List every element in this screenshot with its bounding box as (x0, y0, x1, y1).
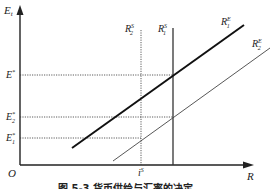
label-r1-supply: RS1 (157, 23, 167, 36)
y-axis-arrow-icon (17, 5, 24, 15)
diagram-canvas: Et R O E* E*2 E*1 RS2 RS1 RE1 RE2 iS 图 5… (0, 0, 272, 189)
origin-label: O (8, 167, 16, 179)
label-e2-star: E*2 (5, 111, 15, 124)
x-axis-label: R (246, 170, 254, 182)
x-axis-arrow-icon (243, 162, 254, 169)
label-i-s: iS (138, 167, 144, 178)
line-r1-expected (72, 25, 244, 148)
figure-caption: 图 5-3 货币供给与汇率的决定 (58, 182, 193, 189)
label-r2-supply: RS2 (124, 23, 134, 36)
line-r2-expected (113, 48, 270, 161)
label-r1-expected: RE1 (220, 16, 231, 29)
label-e1-star: E*1 (5, 132, 15, 145)
y-axis-label: Et (3, 4, 14, 18)
label-e-star: E* (5, 69, 15, 80)
label-r2-expected: RE2 (251, 38, 262, 51)
